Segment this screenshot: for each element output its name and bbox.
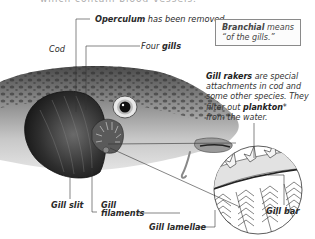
magnified-gill-detail xyxy=(200,139,310,234)
gill-rakers-term: Gill rakers xyxy=(206,72,252,81)
label-gill-slit: Gill slit xyxy=(51,200,83,210)
label-gill-lamellae: Gill lamellae xyxy=(149,222,206,232)
gill-rakers-line5: from the water. xyxy=(206,113,309,123)
branchial-definition: “of the gills.” xyxy=(222,33,294,43)
label-gill-bar: Gill bar xyxy=(266,206,299,216)
label-four-gills: Four gills xyxy=(141,41,181,51)
label-operculum: Operculum has been removed. xyxy=(95,14,227,24)
definition-box-branchial: Branchial means “of the gills.” xyxy=(215,19,301,46)
gill-rakers-line2: attachments in cod and xyxy=(206,82,309,92)
plankton-term: plankton xyxy=(243,103,283,112)
label-gill-filaments-line2: filaments xyxy=(101,208,144,218)
gills-term: gills xyxy=(162,41,181,51)
operculum-term: Operculum xyxy=(95,14,145,24)
gill-rakers-line1: are special xyxy=(252,72,298,81)
four-text: Four xyxy=(141,41,162,51)
gill-rakers-note: Gill rakers are special attachments in c… xyxy=(206,72,309,123)
branchial-means: means xyxy=(264,23,293,32)
branchial-term: Branchial xyxy=(222,23,264,32)
label-cod: Cod xyxy=(49,44,65,54)
gill-rakers-line4-pre: filter out xyxy=(206,103,243,112)
fish-eye xyxy=(113,96,137,118)
plankton-asterisk: * xyxy=(283,103,287,112)
diagram-canvas: which contain blood vessels. xyxy=(0,0,315,239)
gill-rakers-line3: some other species. They xyxy=(206,92,309,102)
